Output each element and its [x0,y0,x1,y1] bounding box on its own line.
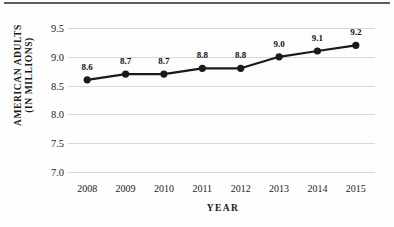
y-axis-title-line2: (IN MILLIONS) [24,0,35,155]
data-point-label: 8.8 [221,50,261,60]
data-point-marker [160,71,167,78]
chart-figure: 7.07.58.08.59.09.5 200820092010201120122… [0,0,394,227]
y-axis-title-line1: AMERICAN ADULTS [13,24,23,126]
data-point-label: 8.8 [182,50,222,60]
data-point-label: 8.6 [67,62,107,72]
data-point-label: 9.1 [297,33,337,43]
y-axis-title: AMERICAN ADULTS (IN MILLIONS) [13,0,43,155]
data-point-marker [122,71,129,78]
data-point-marker [84,76,91,83]
data-point-label: 8.7 [106,56,146,66]
data-point-marker [199,65,206,72]
data-point-label: 9.0 [259,39,299,49]
plot-area: 7.07.58.08.59.09.5 200820092010201120122… [0,0,394,227]
data-point-label: 9.2 [336,27,376,37]
data-point-marker [314,47,321,54]
data-point-marker [352,42,359,49]
data-point-marker [237,65,244,72]
data-point-label: 8.7 [144,56,184,66]
data-point-marker [276,53,283,60]
x-axis-title: YEAR [68,203,378,213]
